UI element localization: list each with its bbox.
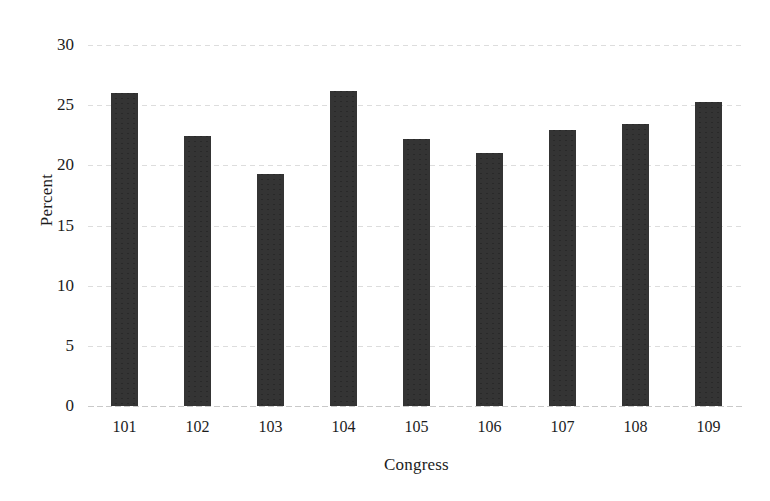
bar [622, 124, 649, 406]
axis-baseline [88, 406, 745, 407]
bar [330, 91, 357, 406]
bar [549, 130, 576, 406]
bar [111, 93, 138, 406]
x-axis-tick-label: 102 [186, 418, 210, 436]
bar [476, 153, 503, 406]
x-axis-tick-label: 105 [405, 418, 429, 436]
y-axis-tick-label: 15 [57, 216, 74, 236]
x-axis-tick-label: 109 [697, 418, 721, 436]
x-axis-tick-label: 101 [113, 418, 137, 436]
gridline [88, 105, 745, 106]
gridline [88, 45, 745, 46]
y-axis-tick-label: 20 [57, 155, 74, 175]
plot-area: 051015202530101102103104105106107108109 [88, 45, 745, 406]
bar [257, 174, 284, 406]
x-axis-tick-label: 106 [478, 418, 502, 436]
y-axis-title: Percent [37, 135, 57, 265]
bar [184, 136, 211, 406]
bar-chart-figure: Percent 05101520253010110210310410510610… [0, 0, 770, 501]
y-axis-tick-label: 0 [66, 396, 75, 416]
x-axis-title: Congress [88, 455, 745, 475]
bar [403, 139, 430, 406]
x-axis-tick-label: 107 [551, 418, 575, 436]
bar [695, 102, 722, 406]
y-axis-tick-label: 25 [57, 95, 74, 115]
x-axis-tick-label: 103 [259, 418, 283, 436]
y-axis-tick-label: 5 [66, 336, 75, 356]
x-axis-tick-label: 104 [332, 418, 356, 436]
y-axis-tick-label: 30 [57, 35, 74, 55]
y-axis-tick-label: 10 [57, 276, 74, 296]
x-axis-tick-label: 108 [624, 418, 648, 436]
